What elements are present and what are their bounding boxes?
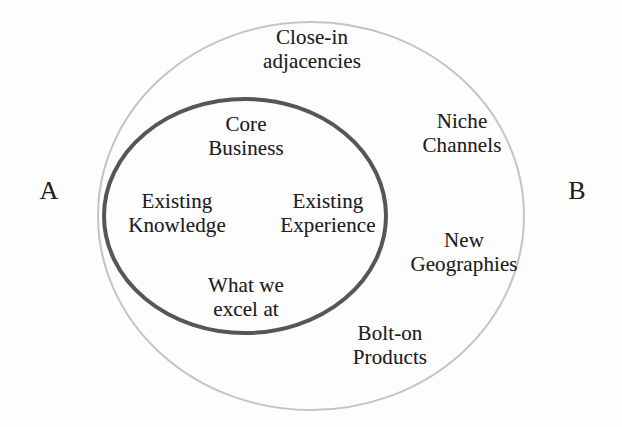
label-what-we-excel-at: What we excel at (166, 274, 326, 321)
label-existing-experience: Existing Experience (258, 190, 398, 237)
label-new-geographies: New Geographies (390, 229, 538, 276)
label-niche-channels: Niche Channels (392, 110, 532, 157)
zone-label-a: A (28, 176, 70, 205)
zone-label-b: B (556, 176, 598, 205)
label-bolt-on-products: Bolt-on Products (320, 322, 460, 369)
venn-diagram: A B Close-in adjacencies Niche Channels … (0, 0, 622, 427)
label-existing-knowledge: Existing Knowledge (102, 190, 252, 237)
label-core-business: Core Business (165, 113, 327, 160)
label-close-in-adjacencies: Close-in adjacencies (217, 26, 407, 73)
